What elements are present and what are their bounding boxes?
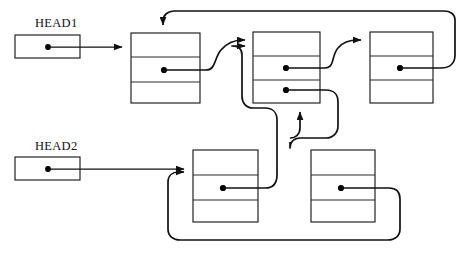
node-node1 [131, 33, 200, 103]
linked-list-diagram: HEAD1 HEAD2 [0, 0, 475, 258]
node-node4 [193, 150, 258, 222]
node-node5 [311, 150, 375, 222]
head1-label: HEAD1 [35, 16, 77, 30]
diagram-canvas: HEAD1 HEAD2 [0, 0, 475, 258]
head2-label: HEAD2 [35, 139, 77, 153]
